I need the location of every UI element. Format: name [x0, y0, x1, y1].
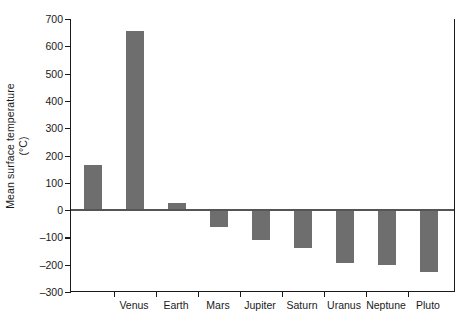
x-axis-tick [282, 291, 283, 297]
x-axis-tick [114, 291, 115, 297]
x-axis-label: Jupiter [244, 299, 276, 311]
y-axis-tick-label: 300 [27, 122, 63, 134]
x-axis-tick [156, 291, 157, 297]
zero-line-group [71, 19, 454, 291]
zero-line [71, 209, 454, 211]
x-axis-label: Uranus [327, 299, 361, 311]
x-axis-label: Saturn [287, 299, 318, 311]
x-axis-label: Neptune [366, 299, 406, 311]
y-axis-tick-label: 600 [27, 40, 63, 52]
plot-area: 7006005004003002001000–100–200–300 [70, 19, 455, 292]
x-axis-tick [324, 291, 325, 297]
y-axis-tick-label: –200 [27, 259, 63, 271]
y-axis-tick-label: 100 [27, 177, 63, 189]
y-axis-tick-label: 400 [27, 95, 63, 107]
y-axis-tick-label: –100 [27, 231, 63, 243]
y-axis-tick-label: 200 [27, 150, 63, 162]
x-axis-tick [408, 291, 409, 297]
y-axis-tick-label: –300 [27, 286, 63, 298]
x-axis-tick [198, 291, 199, 297]
y-axis-tick-label: 500 [27, 68, 63, 80]
x-axis-label: Venus [119, 299, 148, 311]
x-axis-tick [240, 291, 241, 297]
x-axis-label: Mars [206, 299, 229, 311]
x-axis-label: Pluto [416, 299, 440, 311]
x-axis-labels: VenusEarthMarsJupiterSaturnUranusNeptune… [70, 299, 455, 317]
y-axis-tick-label: 700 [27, 13, 63, 25]
y-axis-tick-label: 0 [27, 204, 63, 216]
x-axis-label: Earth [163, 299, 188, 311]
x-axis-tick [366, 291, 367, 297]
y-axis-tick [65, 292, 71, 293]
bar-chart-figure: Mean surface temperature (°C) 7006005004… [0, 0, 464, 319]
y-axis-title-line1: Mean surface temperature [4, 83, 16, 209]
